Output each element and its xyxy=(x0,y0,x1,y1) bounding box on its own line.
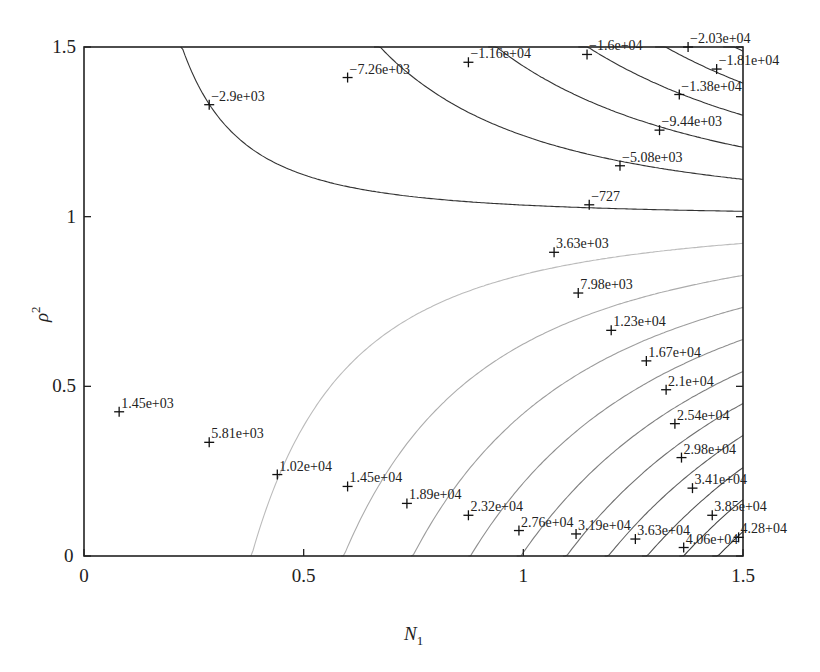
y-axis-title: ρ2 xyxy=(28,306,52,323)
contour-value-label: 1.67e+04 xyxy=(648,345,701,360)
contour-label: 2.98e+04 xyxy=(676,442,736,463)
y-axis-title-main: ρ xyxy=(31,313,52,323)
x-tick-label: 0.5 xyxy=(292,565,316,586)
contour-value-label: 2.54e+04 xyxy=(677,408,730,423)
contour-label: 7.98e+03 xyxy=(573,277,633,298)
contour-value-label: 7.98e+03 xyxy=(580,277,633,292)
contour-label: −2.03e+04 xyxy=(683,31,751,52)
contour-value-label: 2.1e+04 xyxy=(668,374,714,389)
contour-value-label: −1.81e+04 xyxy=(719,53,780,68)
contour-value-label: 3.41e+04 xyxy=(694,472,747,487)
contour-value-label: 1.45e+04 xyxy=(350,470,403,485)
contour-value-label: 3.63e+04 xyxy=(637,523,690,538)
x-axis-title: N1 xyxy=(403,623,423,648)
contour-value-label: 2.98e+04 xyxy=(683,442,736,457)
contour-label: 5.81e+03 xyxy=(204,426,264,447)
contour-value-label: 1.02e+04 xyxy=(279,459,332,474)
contour-label: −1.6e+04 xyxy=(582,38,643,59)
y-tick-label: 1 xyxy=(67,206,77,227)
contour-label: 2.54e+04 xyxy=(670,408,730,429)
contour-value-label: 1.45e+03 xyxy=(121,396,174,411)
contour-value-label: −1.38e+04 xyxy=(681,79,742,94)
contour-label: 3.63e+03 xyxy=(549,236,609,257)
contour-value-label: −2.9e+03 xyxy=(211,89,265,104)
contour-label: −2.9e+03 xyxy=(204,89,265,110)
contour-value-label: 1.23e+04 xyxy=(613,314,666,329)
contour-value-label: −1.16e+04 xyxy=(470,46,531,61)
contour-line-negative xyxy=(181,47,743,211)
x-tick-label: 0 xyxy=(79,565,89,586)
contour-label: −1.38e+04 xyxy=(674,79,742,100)
contour-label: 3.85e+04 xyxy=(707,499,767,520)
y-tick-label: 0.5 xyxy=(52,375,76,396)
contour-label: 4.28+04 xyxy=(734,521,787,542)
contour-label: −727 xyxy=(584,189,620,210)
contour-line-negative xyxy=(488,47,743,147)
y-tick-label: 1.5 xyxy=(52,36,76,57)
contour-value-label: 3.85e+04 xyxy=(714,499,767,514)
contour-value-label: 4.28+04 xyxy=(741,521,787,536)
contour-value-label: −1.6e+04 xyxy=(589,38,643,53)
contour-label: 1.89e+04 xyxy=(402,487,462,508)
contour-value-label: −7.26e+03 xyxy=(350,62,411,77)
contour-label: 2.32e+04 xyxy=(463,499,523,520)
y-axis-title-sup: 2 xyxy=(28,306,43,313)
contour-value-label: −727 xyxy=(591,189,620,204)
contour-label: −7.26e+03 xyxy=(343,62,411,83)
contour-label: 3.41e+04 xyxy=(687,472,747,493)
contour-value-label: −2.03e+04 xyxy=(690,31,751,46)
x-axis-title-sub: 1 xyxy=(417,633,424,648)
contour-label: 1.45e+03 xyxy=(114,396,174,417)
contour-label: 1.67e+04 xyxy=(641,345,701,366)
contour-value-label: 4.06e+04 xyxy=(686,532,739,547)
contour-labels: −2.9e+03−7.26e+03−1.16e+04−1.6e+04−2.03e… xyxy=(114,31,787,553)
contour-value-label: 5.81e+03 xyxy=(211,426,264,441)
contour-label: 3.19e+04 xyxy=(571,518,631,539)
x-tick-label: 1.5 xyxy=(731,565,755,586)
contour-value-label: 1.89e+04 xyxy=(409,487,462,502)
origin-y-label: 0 xyxy=(64,545,74,566)
contour-value-label: 2.76e+04 xyxy=(521,515,574,530)
contour-value-label: 3.63e+03 xyxy=(556,236,609,251)
contour-value-label: −9.44e+03 xyxy=(662,114,723,129)
contour-chart: 00.511.50.511.5 −2.9e+03−7.26e+03−1.16e+… xyxy=(0,0,820,672)
contour-value-label: 2.32e+04 xyxy=(470,499,523,514)
contour-label: −1.81e+04 xyxy=(712,53,780,74)
contour-value-label: 3.19e+04 xyxy=(578,518,631,533)
contour-lines xyxy=(181,47,743,556)
contour-label: −5.08e+03 xyxy=(615,150,683,171)
contour-label: 2.1e+04 xyxy=(661,374,714,395)
contour-label: 1.45e+04 xyxy=(343,470,403,491)
contour-label: −9.44e+03 xyxy=(655,114,723,135)
contour-label: 2.76e+04 xyxy=(514,515,574,536)
x-tick-label: 1 xyxy=(519,565,529,586)
contour-label: 1.02e+04 xyxy=(272,459,332,480)
contour-label: 1.23e+04 xyxy=(606,314,666,335)
plot-frame xyxy=(84,47,743,556)
contour-value-label: −5.08e+03 xyxy=(622,150,683,165)
